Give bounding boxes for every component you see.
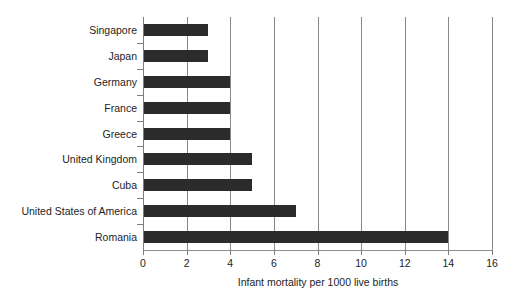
x-axis-tick-label: 2 <box>167 257 207 270</box>
category-axis: SingaporeJapanGermanyFranceGreeceUnited … <box>0 17 137 250</box>
bar <box>143 153 252 165</box>
category-label: Singapore <box>2 24 137 36</box>
y-axis-tick <box>137 43 143 44</box>
x-axis-tick <box>143 250 144 255</box>
bar-chart: SingaporeJapanGermanyFranceGreeceUnited … <box>0 0 513 300</box>
bar <box>143 205 296 217</box>
y-axis-tick <box>137 146 143 147</box>
bar <box>143 50 208 62</box>
x-axis-tick-label: 8 <box>298 257 338 270</box>
x-axis-tick-label: 16 <box>472 257 512 270</box>
bar <box>143 128 230 140</box>
y-axis-tick <box>137 121 143 122</box>
y-axis-line <box>143 17 144 251</box>
category-label: Cuba <box>2 179 137 191</box>
y-axis-tick <box>137 69 143 70</box>
category-label: Romania <box>2 231 137 243</box>
gridline <box>448 17 449 250</box>
x-axis-tick <box>274 250 275 255</box>
x-axis-tick-label: 0 <box>123 257 163 270</box>
bar <box>143 102 230 114</box>
category-label: United Kingdom <box>2 153 137 165</box>
category-label: Japan <box>2 50 137 62</box>
x-axis-tick <box>187 250 188 255</box>
category-label: France <box>2 102 137 114</box>
category-label: Greece <box>2 128 137 140</box>
plot-area <box>143 17 492 250</box>
category-label: United States of America <box>2 205 137 217</box>
gridline <box>492 17 493 250</box>
x-axis-tick-label: 4 <box>210 257 250 270</box>
bar <box>143 231 448 243</box>
gridline <box>318 17 319 250</box>
x-axis-tick <box>318 250 319 255</box>
gridline <box>405 17 406 250</box>
x-axis-tick <box>361 250 362 255</box>
y-axis-tick <box>137 198 143 199</box>
bar <box>143 179 252 191</box>
x-axis-tick-label: 10 <box>341 257 381 270</box>
bar <box>143 76 230 88</box>
x-axis-tick <box>448 250 449 255</box>
y-axis-tick <box>137 224 143 225</box>
x-axis-tick-label: 6 <box>254 257 294 270</box>
x-axis-tick <box>492 250 493 255</box>
x-axis-tick-label: 14 <box>428 257 468 270</box>
x-axis-tick <box>230 250 231 255</box>
x-axis-title: Infant mortality per 1000 live births <box>143 276 493 289</box>
y-axis-tick <box>137 172 143 173</box>
category-label: Germany <box>2 76 137 88</box>
bar <box>143 24 208 36</box>
x-axis-tick <box>405 250 406 255</box>
y-axis-tick <box>137 95 143 96</box>
x-axis-tick-label: 12 <box>385 257 425 270</box>
gridline <box>361 17 362 250</box>
